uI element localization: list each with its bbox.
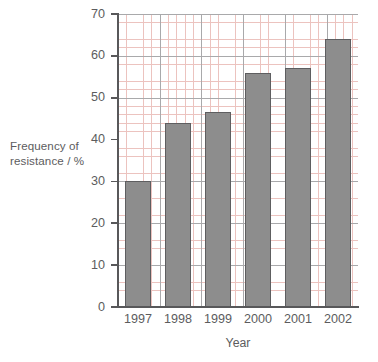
y-axis-tick — [111, 181, 118, 183]
major-gridlines — [118, 14, 358, 307]
x-axis-tick-label: 2002 — [314, 313, 362, 326]
y-axis-tick-label: 30 — [65, 175, 105, 188]
x-axis-label: Year — [118, 336, 358, 350]
bar — [165, 123, 192, 307]
bar-chart-figure: Frequency of resistance / % 010203040506… — [0, 0, 378, 362]
y-axis-tick — [111, 97, 118, 99]
y-axis-tick-label: 10 — [65, 259, 105, 272]
y-axis-label-line-2: resistance / % — [10, 153, 106, 168]
y-axis-tick — [111, 306, 118, 308]
y-axis-tick-label: 50 — [65, 91, 105, 104]
y-axis-tick — [111, 222, 118, 224]
bar — [245, 73, 272, 307]
y-axis-tick-label: 0 — [65, 301, 105, 314]
bar — [285, 68, 312, 307]
x-axis-line — [117, 306, 359, 308]
y-axis-tick-label: 60 — [65, 49, 105, 62]
y-axis-tick-label: 20 — [65, 217, 105, 230]
bar — [125, 181, 152, 307]
bar — [325, 39, 352, 307]
plot-area — [118, 14, 358, 307]
y-axis-tick-label: 70 — [65, 8, 105, 21]
y-axis-tick — [111, 139, 118, 141]
y-axis-tick-label: 40 — [65, 133, 105, 146]
bar — [205, 112, 232, 307]
y-axis-tick — [111, 55, 118, 57]
y-axis-tick — [111, 264, 118, 266]
y-axis-tick — [111, 13, 118, 15]
